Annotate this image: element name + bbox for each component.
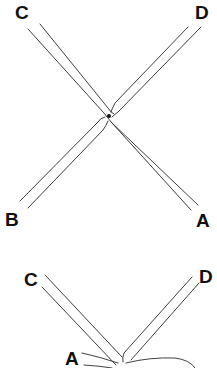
strand-c-line-1 xyxy=(45,275,122,357)
label-a-bottom: A xyxy=(65,349,79,368)
strand-d-b-line-2 xyxy=(112,27,201,117)
strand-d-line-1 xyxy=(123,277,192,362)
strand-d-b-line-3 xyxy=(20,117,105,201)
label-d-top: D xyxy=(195,3,209,22)
label-c-top: C xyxy=(15,3,29,22)
strand-d-b-line-4 xyxy=(28,121,108,208)
strand-a-line-1 xyxy=(82,353,118,363)
label-c-bottom: C xyxy=(24,270,38,289)
label-a-top: A xyxy=(196,211,210,230)
strand-curve xyxy=(126,358,195,368)
strand-d-b-line-1 xyxy=(111,27,188,112)
diagram-canvas: C D B A C D A xyxy=(0,0,217,368)
label-d-bottom: D xyxy=(199,267,213,286)
top-figure-strands xyxy=(20,24,201,210)
strand-c-a-line-2 xyxy=(40,24,114,114)
label-b-top: B xyxy=(5,210,19,229)
strand-c-a-line-3 xyxy=(111,122,198,205)
strand-drawing xyxy=(0,0,217,368)
strand-d-line-2 xyxy=(131,283,199,360)
crossing-knot xyxy=(107,114,111,118)
strand-c-line-2 xyxy=(42,287,116,365)
